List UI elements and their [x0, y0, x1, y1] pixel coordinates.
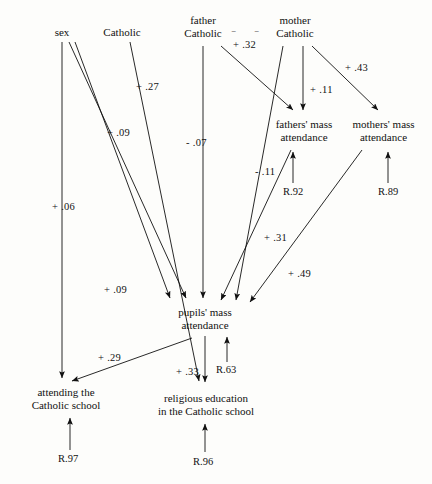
node-father-catholic: father Catholic: [168, 14, 238, 39]
residual-label-pupils-mass: R.63: [216, 364, 236, 375]
node-religious-education: religious education in the Catholic scho…: [131, 392, 281, 417]
path-pupils-to-attending: [72, 338, 192, 381]
node-mothers-mass-line1: mothers' mass: [336, 118, 431, 131]
overline-mark-right: ‾: [255, 31, 259, 42]
node-attending-line1: attending the: [6, 386, 126, 399]
node-pupils-mass-line2: attendance: [160, 319, 250, 332]
path-father-catholic-to-fathers-mass: [221, 46, 293, 110]
node-catholic-line1: Catholic: [92, 26, 152, 39]
coefficient-fathers-mass-to-pupils-031: + .31: [264, 232, 287, 243]
node-religious-ed-line1: religious education: [131, 392, 281, 405]
node-mother-catholic-line2: Catholic: [260, 27, 330, 40]
node-sex: sex: [42, 26, 82, 39]
node-father-catholic-line1: father: [168, 14, 238, 27]
coefficient-mother-to-fathers-mass-032: + .32: [233, 39, 256, 50]
coefficient-sex-to-pupils-009-a: + .09: [107, 127, 130, 138]
coefficient-pupils-to-attending-029: + .29: [98, 352, 121, 363]
node-mother-catholic: mother Catholic: [260, 14, 330, 39]
node-attending-catholic-school: attending the Catholic school: [6, 386, 126, 411]
path-diagram-figure: sex Catholic father Catholic mother Cath…: [0, 0, 432, 484]
residual-label-fathers-mass: R.92: [283, 186, 303, 197]
node-mothers-mass-attendance: mothers' mass attendance: [336, 118, 431, 143]
node-father-catholic-line2: Catholic: [168, 27, 238, 40]
node-mothers-mass-line2: attendance: [336, 131, 431, 144]
overline-mark-left: ‾: [232, 31, 236, 42]
node-pupils-mass-line1: pupils' mass: [160, 306, 250, 319]
node-mother-catholic-line1: mother: [260, 14, 330, 27]
coefficient-pupils-to-religious-ed-033: + .33: [176, 366, 199, 377]
coefficient-mother-to-fathers-mass-011: + .11: [310, 84, 333, 95]
node-catholic: Catholic: [92, 26, 152, 39]
coefficient-mothers-mass-to-pupils-049: + .49: [288, 268, 311, 279]
node-attending-line2: Catholic school: [6, 399, 126, 412]
residual-label-attending: R.97: [58, 453, 78, 464]
coefficient-sex-to-attending-006: + .06: [52, 201, 75, 212]
node-sex-line1: sex: [42, 26, 82, 39]
path-sex-to-pupils-a: [69, 42, 186, 298]
coefficient-catholic-to-religious-ed-027: + .27: [136, 81, 159, 92]
node-pupils-mass-attendance: pupils' mass attendance: [160, 306, 250, 331]
coefficient-mother-to-mothers-mass-043: + .43: [345, 62, 368, 73]
path-mother-catholic-to-mothers-mass: [312, 46, 378, 110]
coefficient-sex-to-pupils-009-b: + .09: [104, 284, 127, 295]
node-religious-ed-line2: in the Catholic school: [131, 405, 281, 418]
residual-label-mothers-mass: R.89: [378, 186, 398, 197]
coefficient-mother-to-pupils-011-neg: - .11: [255, 166, 275, 177]
residual-label-religious-ed: R.96: [193, 456, 213, 467]
coefficient-father-to-pupils-007: - .07: [186, 137, 207, 148]
